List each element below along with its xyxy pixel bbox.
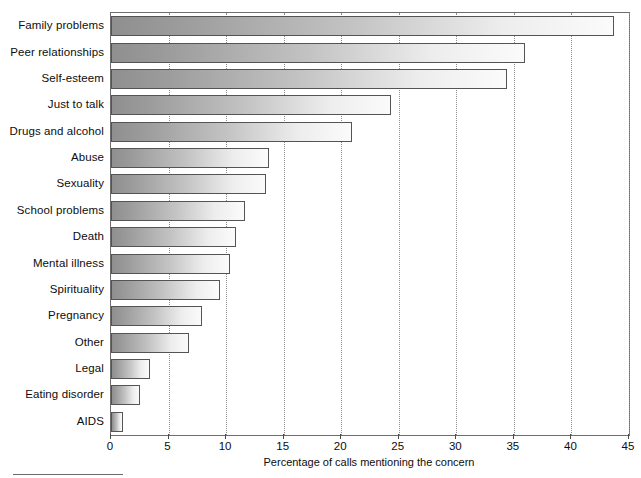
x-axis-title: Percentage of calls mentioning the conce… — [110, 456, 628, 469]
y-axis-label: Just to talk — [0, 98, 104, 110]
bar — [111, 254, 230, 274]
bar-chart: Family problemsPeer relationshipsSelf-es… — [0, 0, 641, 478]
y-axis-label: Pregnancy — [0, 309, 104, 321]
bar — [111, 359, 150, 379]
y-axis-label: Abuse — [0, 151, 104, 163]
y-axis-label: Mental illness — [0, 257, 104, 269]
x-axis-ticks — [110, 434, 628, 440]
x-tick — [168, 434, 169, 439]
x-tick-label: 15 — [276, 440, 289, 453]
y-axis-label: Legal — [0, 362, 104, 374]
bar — [111, 201, 245, 221]
bar — [111, 16, 614, 36]
bar — [111, 174, 266, 194]
x-tick-label: 25 — [391, 440, 404, 453]
gridline-35 — [514, 13, 515, 435]
bar — [111, 122, 352, 142]
bar — [111, 385, 140, 405]
bar — [111, 306, 202, 326]
plot-frame — [110, 12, 630, 436]
x-tick — [628, 434, 629, 439]
y-axis-label: Death — [0, 230, 104, 242]
y-axis-category-labels: Family problemsPeer relationshipsSelf-es… — [0, 12, 104, 434]
y-axis-label: Sexuality — [0, 177, 104, 189]
x-tick — [110, 434, 111, 439]
footnote-rule — [13, 474, 123, 475]
x-tick — [455, 434, 456, 439]
bar — [111, 333, 189, 353]
x-tick — [225, 434, 226, 439]
x-tick-label: 10 — [219, 440, 232, 453]
y-axis-label: School problems — [0, 204, 104, 216]
x-tick — [513, 434, 514, 439]
x-tick-label: 0 — [107, 440, 113, 453]
bar — [111, 412, 123, 432]
y-axis-label: AIDS — [0, 415, 104, 427]
y-axis-label: Other — [0, 336, 104, 348]
gridline-40 — [571, 13, 572, 435]
x-tick-label: 5 — [164, 440, 170, 453]
x-tick — [340, 434, 341, 439]
bar — [111, 69, 507, 89]
x-tick-label: 20 — [334, 440, 347, 453]
bar — [111, 43, 525, 63]
x-tick — [570, 434, 571, 439]
y-axis-label: Drugs and alcohol — [0, 125, 104, 137]
y-axis-label: Spirituality — [0, 283, 104, 295]
gridline-45 — [629, 13, 630, 435]
bar — [111, 148, 269, 168]
x-tick-label: 30 — [449, 440, 462, 453]
x-tick-label: 40 — [564, 440, 577, 453]
x-tick-label: 35 — [506, 440, 519, 453]
x-tick — [283, 434, 284, 439]
bar — [111, 227, 236, 247]
y-axis-label: Self-esteem — [0, 72, 104, 84]
x-tick — [398, 434, 399, 439]
y-axis-label: Family problems — [0, 19, 104, 31]
bar — [111, 280, 220, 300]
y-axis-label: Eating disorder — [0, 388, 104, 400]
x-tick-label: 45 — [622, 440, 635, 453]
plot-area — [111, 13, 629, 435]
bar — [111, 95, 391, 115]
y-axis-label: Peer relationships — [0, 46, 104, 58]
